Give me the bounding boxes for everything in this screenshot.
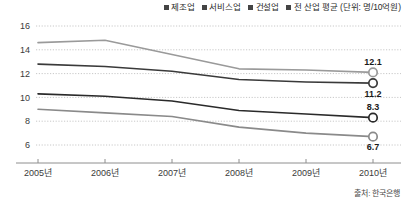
y-axis-tick-labels: 1614121086 (20, 21, 30, 150)
line-chart-container: 제조업 서비스업 건설업 전 산업 평균 (단위: 명/10억원) 161412… (0, 0, 407, 203)
series-end-marker (369, 132, 377, 140)
y-axis-tick-label: 14 (20, 45, 30, 55)
y-axis-tick-label: 16 (20, 21, 30, 31)
x-axis-tick-label: 2008년 (225, 168, 253, 178)
series-end-marker (369, 79, 377, 87)
source-note: 출처: 한국은행 (354, 187, 400, 198)
x-axis (16, 159, 401, 163)
series-end-marker (369, 113, 377, 121)
x-axis-tick-labels: 2005년2006년2007년2008년2009년2010년 (24, 168, 387, 178)
series-line (38, 40, 373, 72)
x-axis-tick-label: 2009년 (292, 168, 320, 178)
series-value-label: 11.2 (364, 89, 381, 99)
series-line (38, 109, 373, 136)
series-end-marker (369, 68, 377, 76)
x-axis-tick-label: 2010년 (359, 168, 387, 178)
x-axis-tick-label: 2005년 (24, 168, 52, 178)
y-axis-tick-label: 6 (25, 140, 30, 150)
x-axis-tick-label: 2007년 (158, 168, 186, 178)
y-axis-tick-label: 8 (25, 116, 30, 126)
series-value-label: 8.3 (367, 102, 380, 112)
chart-plot-area: 1614121086 2005년2006년2007년2008년2009년2010… (0, 0, 407, 203)
series-lines (38, 40, 373, 136)
series-value-label: 12.1 (364, 57, 382, 67)
y-axis-tick-label: 10 (20, 93, 30, 103)
gridlines (36, 26, 401, 145)
y-axis-tick-label: 12 (20, 69, 30, 79)
x-axis-tick-label: 2006년 (91, 168, 119, 178)
series-value-label: 6.7 (367, 142, 380, 152)
